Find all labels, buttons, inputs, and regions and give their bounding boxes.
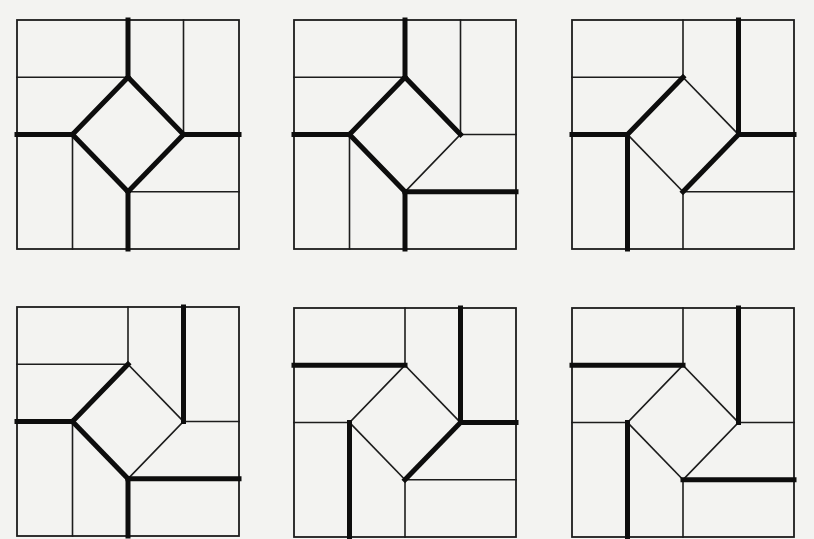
tile-panel-4 <box>17 307 239 536</box>
panel-1-drawing <box>17 20 239 249</box>
segment-diamond-br <box>683 423 739 480</box>
segment-diamond-tl <box>73 364 129 421</box>
panel-6-drawing <box>572 308 794 537</box>
segment-diamond-tr <box>683 365 739 422</box>
panel-3-drawing <box>572 20 794 249</box>
tile-panel-2 <box>294 20 516 249</box>
segment-diamond-br <box>405 135 461 192</box>
segment-diamond-bl <box>628 423 684 480</box>
segment-diamond-tr <box>128 77 184 134</box>
tile-panel-5 <box>294 308 516 537</box>
segment-diamond-br <box>683 135 739 192</box>
panel-5-drawing <box>294 308 516 537</box>
segment-diamond-bl <box>350 135 406 192</box>
segment-diamond-tr <box>683 77 739 134</box>
segment-diamond-tr <box>405 77 461 134</box>
segment-diamond-br <box>128 135 184 192</box>
panel-4-drawing <box>17 307 239 536</box>
segment-diamond-bl <box>73 422 129 479</box>
tile-panel-6 <box>572 308 794 537</box>
tile-figure <box>0 0 814 539</box>
segment-diamond-tl <box>350 77 406 134</box>
segment-diamond-bl <box>350 423 406 480</box>
segment-diamond-br <box>128 422 184 479</box>
segment-diamond-tr <box>405 365 461 422</box>
tile-panel-1 <box>17 20 239 249</box>
segment-diamond-tl <box>350 365 406 422</box>
segment-diamond-tr <box>128 364 184 421</box>
segment-diamond-tl <box>73 77 129 134</box>
segment-diamond-br <box>405 423 461 480</box>
segment-diamond-bl <box>73 135 129 192</box>
segment-diamond-bl <box>628 135 684 192</box>
segment-diamond-tl <box>628 77 684 134</box>
panel-2-drawing <box>294 20 516 249</box>
tile-panel-3 <box>572 20 794 249</box>
segment-diamond-tl <box>628 365 684 422</box>
